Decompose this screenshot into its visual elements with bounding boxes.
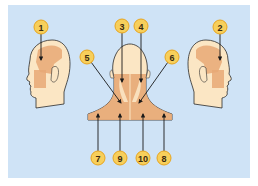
svg-text:5: 5 [84,53,89,63]
svg-text:4: 4 [138,22,143,32]
back-view-neck-shoulders [88,44,172,120]
svg-text:6: 6 [169,53,174,63]
label-badge-2: 2 [213,20,227,34]
head-neck-diagram: 1 2 3 4 5 6 7 9 10 8 [0,0,258,186]
svg-text:7: 7 [95,154,100,164]
label-badge-1: 1 [34,20,48,34]
svg-text:9: 9 [117,154,122,164]
label-badge-4: 4 [134,19,148,33]
label-badge-9: 9 [113,151,127,165]
label-badge-10: 10 [136,151,150,165]
left-profile-head [27,40,70,108]
svg-text:8: 8 [161,154,166,164]
svg-text:3: 3 [119,22,124,32]
right-profile-head [188,40,231,108]
label-badge-3: 3 [115,19,129,33]
label-badge-5: 5 [80,50,94,64]
label-badge-6: 6 [165,50,179,64]
label-badge-8: 8 [157,151,171,165]
label-badge-7: 7 [91,151,105,165]
svg-text:10: 10 [138,154,148,164]
svg-text:2: 2 [217,23,222,33]
svg-text:1: 1 [38,23,43,33]
